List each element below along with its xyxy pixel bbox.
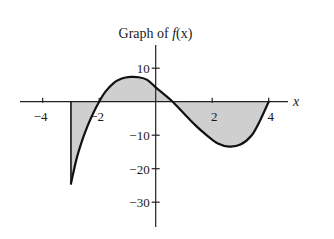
x-tick-label: −4 xyxy=(34,109,48,124)
x-tick-label: 2 xyxy=(211,109,218,124)
y-tick-label: 10 xyxy=(137,61,150,76)
x-tick-label: 4 xyxy=(267,109,274,124)
chart-title-prefix: Graph of xyxy=(119,26,173,41)
y-tick-label: −30 xyxy=(129,195,149,210)
shaded-region xyxy=(71,77,269,184)
x-tick-label: −2 xyxy=(90,109,104,124)
y-tick-label: −20 xyxy=(129,162,149,177)
function-graph: Graph of f(x) −4−22410−10−20−30x xyxy=(0,0,334,239)
x-axis-label: x xyxy=(292,94,300,109)
shaded-area xyxy=(71,77,269,184)
chart-title-arg: (x) xyxy=(176,26,193,42)
y-tick-label: −10 xyxy=(129,128,149,143)
chart-title: Graph of f(x) xyxy=(119,26,193,42)
